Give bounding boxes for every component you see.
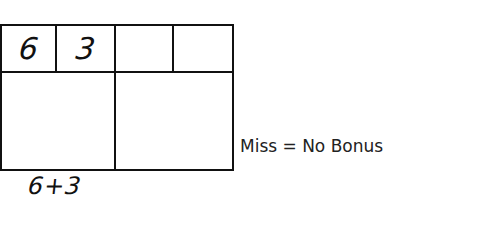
ball-1-score: 6 <box>17 31 40 66</box>
frame-2-ball-1 <box>116 26 172 71</box>
ball-2-score: 3 <box>74 31 97 66</box>
frame-2-total <box>116 73 232 169</box>
bowling-scorecard: 6 3 <box>0 24 234 171</box>
miss-note: Miss = No Bonus <box>240 136 383 156</box>
border-right <box>232 24 234 171</box>
score-formula: 6+3 <box>27 172 84 200</box>
frame-1-ball-2: 3 <box>57 26 114 71</box>
frame-1-ball-1: 6 <box>2 26 55 71</box>
frame-1-total <box>2 73 114 169</box>
border-bottom <box>0 169 234 171</box>
frame-2-ball-2 <box>174 26 232 71</box>
